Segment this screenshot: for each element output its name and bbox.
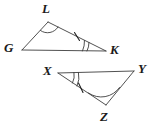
tick-mark-XZ	[79, 83, 84, 93]
angle-arc-K-outer	[87, 43, 89, 52]
angle-arc-K-inner	[83, 41, 85, 52]
triangle-XYZ	[58, 71, 134, 105]
angle-arc-Z	[89, 88, 120, 98]
vertex-label-G: G	[4, 41, 13, 54]
geometry-canvas	[0, 0, 159, 129]
segment-GK	[22, 50, 106, 51]
triangle-GLK	[22, 22, 106, 51]
vertex-label-Z: Z	[100, 110, 108, 123]
segment-XY	[58, 71, 134, 73]
vertex-label-Y: Y	[138, 62, 146, 75]
tick-mark-LK	[75, 33, 80, 41]
vertex-label-X: X	[43, 64, 52, 77]
geometry-figure: G L K X Y Z	[0, 0, 159, 129]
angle-arc-X-inner	[73, 73, 75, 84]
segment-XZ	[58, 73, 106, 105]
segment-GL	[22, 22, 48, 50]
vertex-label-L: L	[42, 2, 50, 15]
segment-YZ	[106, 71, 134, 105]
vertex-label-K: K	[110, 43, 119, 56]
